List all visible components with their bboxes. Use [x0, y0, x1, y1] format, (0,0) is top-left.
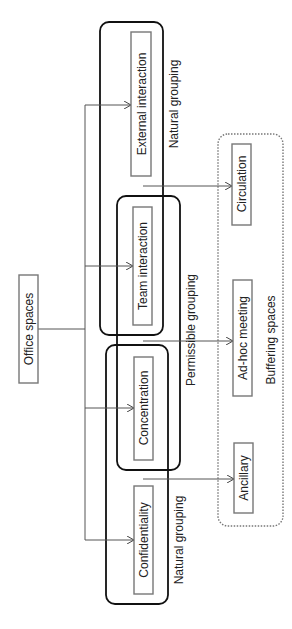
team-interaction-label: Team interaction [136, 222, 150, 310]
diagram-canvas: Office spaces External interaction Team … [0, 0, 292, 629]
external-interaction-label: External interaction [135, 53, 149, 156]
ancillary-label: Ancillary [237, 455, 251, 500]
natural-grouping-bottom-label: Natural grouping [172, 496, 186, 585]
concentration-label: Concentration [137, 371, 151, 446]
confidentiality-label: Confidentiality [137, 502, 151, 577]
permissible-grouping-label: Permissible grouping [184, 274, 198, 386]
natural-grouping-top-label: Natural grouping [167, 60, 181, 149]
office-spaces-label: Office spaces [22, 293, 36, 365]
buffering-spaces-label: Buffering spaces [264, 295, 278, 384]
adhoc-meeting-label: Ad-hoc meeting [236, 296, 250, 380]
circulation-label: Circulation [235, 156, 249, 213]
